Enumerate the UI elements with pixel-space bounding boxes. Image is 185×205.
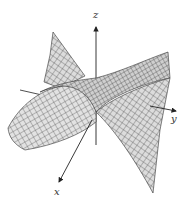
y-axis-label: y <box>171 114 177 124</box>
z-axis-label: z <box>93 10 98 20</box>
surface-tube <box>8 86 96 150</box>
x-axis-label: x <box>54 187 60 197</box>
surface-back-fin <box>44 32 85 88</box>
negative-y-axis <box>20 90 42 95</box>
surface-plot <box>0 0 185 205</box>
